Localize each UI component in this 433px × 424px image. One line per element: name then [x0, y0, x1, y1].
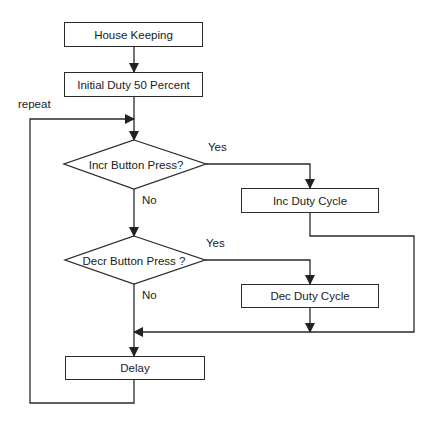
- initial-duty-label: Initial Duty 50 Percent: [77, 79, 190, 91]
- inc-duty-label: Inc Duty Cycle: [273, 195, 347, 207]
- process-inc-duty-cycle: Inc Duty Cycle: [241, 188, 379, 213]
- process-initial-duty: Initial Duty 50 Percent: [64, 72, 203, 97]
- incr-no-label: No: [142, 194, 157, 206]
- repeat-label: repeat: [18, 98, 51, 110]
- decr-no-label: No: [142, 289, 157, 301]
- delay-label: Delay: [120, 362, 149, 374]
- dec-duty-label: Dec Duty Cycle: [270, 290, 349, 302]
- decision-incr-label: Incr Button Press?: [89, 159, 184, 171]
- line-inc-to-merge: [310, 213, 414, 332]
- arrow-decr-yes: [205, 260, 310, 284]
- decr-yes-label: Yes: [206, 237, 225, 249]
- process-house-keeping: House Keeping: [64, 22, 203, 47]
- process-dec-duty-cycle: Dec Duty Cycle: [241, 284, 379, 308]
- incr-yes-label: Yes: [208, 141, 227, 153]
- house-keeping-label: House Keeping: [94, 29, 173, 41]
- arrow-incr-yes: [206, 164, 310, 188]
- process-delay: Delay: [65, 356, 205, 380]
- decision-decr-label: Decr Button Press ?: [83, 255, 186, 267]
